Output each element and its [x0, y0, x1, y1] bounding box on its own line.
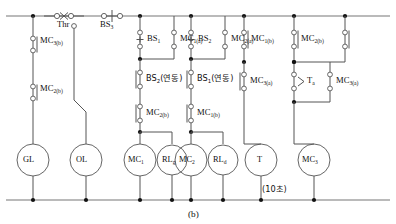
bs2-label: BS2 [198, 34, 211, 44]
mc3a-mid-label: MC3(a) [250, 76, 272, 86]
coil-label-ol: OL [76, 156, 87, 164]
coil-label-mc3: MC3 [302, 156, 318, 165]
mc3b-left-label: MC3(b) [40, 36, 63, 46]
figure-caption: (b) [188, 210, 199, 219]
coil-label-gl: GL [23, 156, 34, 164]
bs3-label: BS3 [100, 20, 113, 30]
coil-label-mc2: MC2 [179, 156, 195, 165]
branch-ol-wire [74, 34, 86, 144]
ta-label: Ta [307, 76, 315, 86]
mc2b-mid-label: MC2(b) [146, 108, 169, 118]
thr-label: Thr [57, 20, 69, 29]
figure-ladder-diagram: .w{stroke:#555;stroke-width:1;fill:none;… [0, 0, 396, 224]
bs1-label: BS1 [147, 34, 160, 44]
branch-gl-wire [31, 16, 37, 144]
mc2b-left-label: MC2(b) [40, 84, 63, 94]
timer-note-label: (10초) [262, 185, 287, 193]
mc2b-top-label: MC2(b) [301, 34, 324, 44]
coil-label-t: T [257, 156, 262, 164]
mc1b-mid-label: MC1(b) [197, 108, 220, 118]
coil-label-rlg: RLg [162, 156, 175, 165]
mc3a-right-label: MC3(a) [336, 76, 358, 86]
bottom-rail [6, 175, 390, 202]
bs2-interlock-label: BS2(연동) [146, 74, 183, 84]
coil-label-rld: RLd [213, 156, 226, 165]
mc1b-top-label: MC1(b) [251, 34, 274, 44]
coil-label-mc1: MC1 [128, 156, 144, 165]
bs1-interlock-label: BS1(연동) [197, 74, 234, 84]
